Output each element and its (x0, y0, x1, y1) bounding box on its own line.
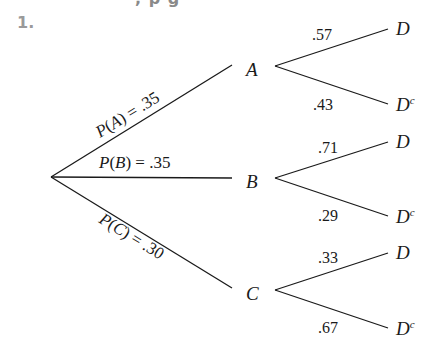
label-p-b: P(B) = .35 (98, 153, 170, 172)
node-a: A (244, 59, 258, 80)
probability-tree-diagram: P(A) = .35 P(B) = .35 P(C) = .30 A B C .… (0, 0, 424, 348)
outcome-a-dc: Dc (395, 94, 415, 115)
prob-c-dc: .67 (318, 319, 338, 336)
outcome-a-d: D (395, 18, 410, 39)
prob-a-dc: .43 (313, 96, 333, 113)
label-p-c: P(C) = .30 (95, 209, 168, 264)
prob-c-d: .33 (318, 249, 338, 266)
outcome-c-dc: Dc (395, 318, 415, 339)
outcome-c-d: D (395, 242, 410, 263)
prob-b-d: .71 (318, 139, 338, 156)
prob-a-d: .57 (312, 26, 332, 43)
branch-root-to-b (51, 177, 232, 178)
outcome-b-d: D (395, 131, 410, 152)
prob-b-dc: .29 (318, 207, 338, 224)
node-c: C (246, 283, 259, 304)
node-b: B (246, 171, 258, 192)
outcome-b-dc: Dc (395, 206, 415, 227)
